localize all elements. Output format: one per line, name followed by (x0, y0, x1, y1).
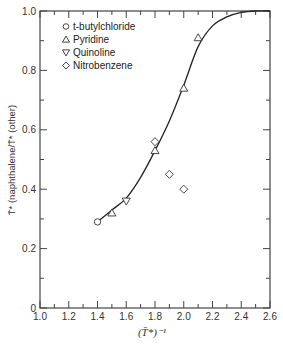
y-tick-labels: 00.20.40.60.81.0 (22, 6, 36, 314)
triangle-up-marker-icon (151, 147, 159, 154)
diamond-marker-icon (63, 62, 70, 69)
diamond-marker-icon (180, 185, 188, 193)
circle-marker-icon (63, 24, 69, 30)
y-tick-label: 0.6 (22, 124, 36, 135)
x-tick-label: 1.8 (148, 311, 162, 322)
y-tick-label: 0.8 (22, 65, 36, 76)
x-tick-label: 2.2 (206, 311, 220, 322)
x-tick-labels: 1.01.21.41.61.82.02.22.42.6 (33, 311, 277, 322)
legend-item-label: t-butylchloride (73, 21, 136, 32)
x-tick-label: 2.4 (234, 311, 248, 322)
y-axis-title: T̄* (naphthalene/T̄* (other) (6, 105, 17, 215)
triangle-up-marker-icon (194, 34, 202, 41)
triangle-up-marker-icon (180, 84, 188, 91)
x-axis-title: (T̄*)⁻¹ (138, 326, 166, 339)
y-tick-label: 0 (30, 303, 36, 314)
circle-marker-icon (94, 219, 100, 225)
x-tick-label: 1.4 (91, 311, 105, 322)
legend-item-label: Quinoline (73, 47, 116, 58)
legend: t-butylchloridePyridineQuinolineNitroben… (63, 21, 136, 71)
y-tick-label: 0.2 (22, 243, 36, 254)
triangle-up-marker-icon (63, 36, 70, 42)
legend-item-label: Nitrobenzene (73, 60, 133, 71)
legend-item-label: Pyridine (73, 34, 110, 45)
x-tick-label: 2.6 (263, 311, 277, 322)
y-tick-label: 0.4 (22, 184, 36, 195)
x-tick-label: 1.2 (62, 311, 76, 322)
scatter-chart: 1.01.21.41.61.82.02.22.42.6 00.20.40.60.… (0, 0, 283, 347)
x-tick-label: 2.0 (177, 311, 191, 322)
y-tick-label: 1.0 (22, 6, 36, 17)
triangle-down-marker-icon (63, 50, 70, 56)
diamond-marker-icon (165, 170, 173, 178)
x-tick-label: 1.6 (119, 311, 133, 322)
